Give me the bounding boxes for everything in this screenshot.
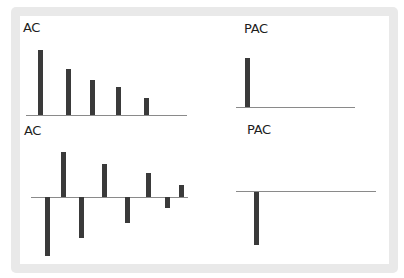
correlation-bar [245, 58, 250, 107]
correlation-bar [90, 80, 95, 115]
panel-title-ac-top: AC [23, 20, 40, 35]
x-axis-line [26, 115, 187, 116]
correlation-bar [125, 197, 130, 223]
correlation-bar [102, 164, 107, 197]
correlation-bar [116, 87, 121, 115]
correlation-bar [45, 197, 50, 256]
correlation-bar [66, 69, 71, 115]
correlation-bar [165, 197, 170, 208]
panel-title-ac-bottom: AC [24, 123, 41, 138]
correlation-bar [38, 50, 43, 115]
x-axis-line [236, 107, 355, 108]
correlation-bar [61, 152, 66, 197]
correlation-bar [179, 185, 184, 197]
panel-title-pac-bottom: PAC [247, 122, 271, 137]
panel-title-pac-top: PAC [244, 21, 268, 36]
correlation-bar [146, 173, 151, 197]
chart-canvas [20, 16, 389, 264]
correlation-bar [254, 192, 259, 245]
correlation-bar [79, 197, 84, 238]
correlation-bar [144, 98, 149, 115]
